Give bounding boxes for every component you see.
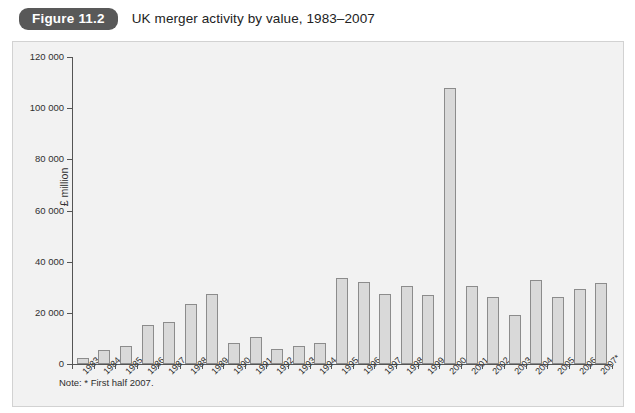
x-axis-tick [396,365,397,369]
figure-title: UK merger activity by value, 1983–2007 [132,12,375,26]
x-axis-tick [158,365,159,369]
x-axis-tick [526,365,527,369]
bar [336,278,348,364]
x-axis-tick [590,365,591,369]
x-axis-tick [547,365,548,369]
bar [422,295,434,364]
y-axis-tick-label: 40 000 [12,257,64,267]
x-axis-tick [180,365,181,369]
bar [185,304,197,364]
x-axis-tick [439,365,440,369]
y-axis-tick-label: 60 000 [12,206,64,216]
figure-header: Figure 11.2 UK merger activity by value,… [0,0,635,38]
bar [509,315,521,364]
bar [487,297,499,364]
x-axis-tick [482,365,483,369]
chart-note: Note: * First half 2007. [59,377,154,388]
x-axis-tick [461,365,462,369]
y-axis-tick [67,211,72,212]
bar [358,282,370,364]
bar [444,88,456,364]
x-axis-tick [223,365,224,369]
y-axis-tick [67,313,72,314]
y-axis-tick [67,57,72,58]
x-axis-tick [504,365,505,369]
bar [163,322,175,364]
bar [142,325,154,364]
y-axis-tick [67,108,72,109]
x-axis-tick [288,365,289,369]
y-axis-tick [67,262,72,263]
x-axis-tick [94,365,95,369]
bar [552,297,564,364]
y-axis-tick-label: 20 000 [12,308,64,318]
figure-container: Figure 11.2 UK merger activity by value,… [0,0,635,413]
figure-number-badge: Figure 11.2 [19,8,118,30]
bar [206,294,218,364]
x-axis-tick [72,365,73,369]
y-axis-line [72,57,73,365]
bar [401,286,413,364]
y-axis-label: £ million [58,127,70,247]
bar [466,286,478,364]
x-axis-tick [353,365,354,369]
bar [530,280,542,364]
x-axis-tick [245,365,246,369]
x-axis-tick [418,365,419,369]
x-axis-tick [374,365,375,369]
y-axis-tick-label: 120 000 [12,52,64,62]
y-axis-tick-label: 0 [12,359,64,369]
y-axis-tick-label: 80 000 [12,154,64,164]
x-axis-tick [612,365,613,369]
bar [379,294,391,364]
bar [595,283,607,364]
x-axis-tick [137,365,138,369]
y-axis-tick-label: 100 000 [12,103,64,113]
bar-chart: £ million 020 00040 00060 00080 000100 0… [12,41,624,407]
x-axis-tick [310,365,311,369]
x-axis-tick [266,365,267,369]
bar [250,337,262,364]
x-axis-tick [569,365,570,369]
x-axis-tick [202,365,203,369]
bar [574,289,586,364]
y-axis-tick [67,159,72,160]
x-axis-tick [115,365,116,369]
x-axis-tick [331,365,332,369]
